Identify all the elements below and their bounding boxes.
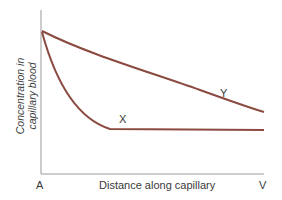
x-axis-label: Distance along capillary xyxy=(99,180,215,191)
x-end-label: V xyxy=(259,180,266,191)
y-axis-label: Concentration in capillary blood xyxy=(14,36,38,156)
y-axis-label-line2: capillary blood xyxy=(26,36,38,156)
curve-y xyxy=(42,31,264,112)
curve-x-label: X xyxy=(119,114,126,125)
curve-y-label: Y xyxy=(220,88,227,99)
y-axis-label-line1: Concentration in xyxy=(14,36,26,156)
x-start-label: A xyxy=(36,180,43,191)
chart-canvas xyxy=(0,0,282,200)
